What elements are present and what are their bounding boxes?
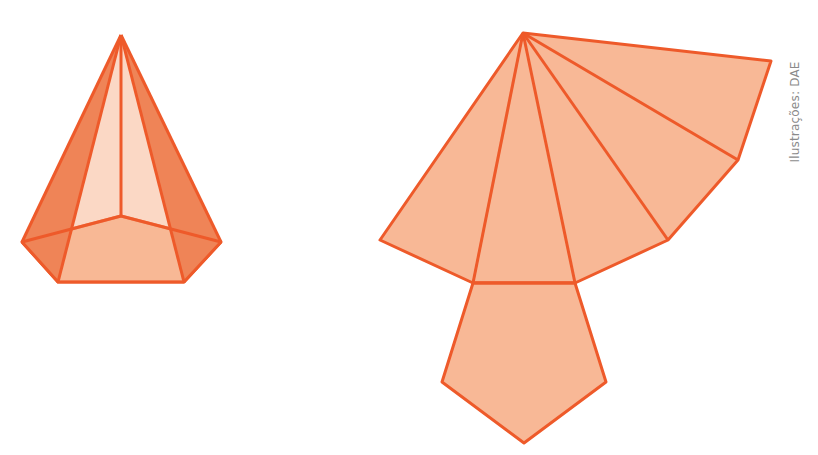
pyramid-net (380, 33, 771, 443)
illustration-credit: Ilustrações: DAE (788, 61, 802, 162)
net-lateral-faces (380, 33, 771, 283)
pentagonal-pyramid (22, 35, 221, 282)
net-base-pentagon (442, 283, 606, 443)
figure-canvas (0, 0, 818, 455)
